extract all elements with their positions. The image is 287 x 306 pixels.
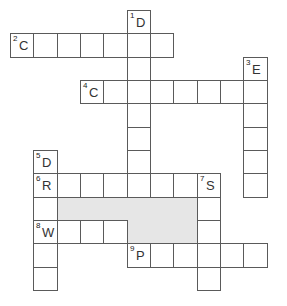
crossword-cell[interactable] — [127, 33, 151, 58]
crossword-cell[interactable] — [150, 33, 174, 58]
crossword-cell[interactable] — [197, 243, 221, 268]
cell-letter: E — [252, 63, 261, 77]
cell-letter: W — [42, 226, 54, 240]
crossword-cell[interactable] — [103, 173, 128, 198]
clue-number: 3 — [246, 58, 250, 68]
crossword-cell-clue-2[interactable]: 2C — [10, 33, 34, 58]
clue-number: 5 — [36, 151, 40, 161]
crossword-cell-clue-9[interactable]: 9P — [127, 243, 151, 268]
crossword-cell[interactable] — [33, 243, 58, 268]
clue-number: 4 — [83, 81, 87, 91]
crossword-cell[interactable] — [197, 267, 221, 291]
cell-letter: R — [42, 179, 51, 193]
cell-letter: C — [19, 39, 28, 53]
crossword-cell[interactable] — [243, 127, 268, 151]
crossword-cell[interactable] — [127, 103, 151, 128]
clue-number: 1 — [130, 11, 134, 21]
crossword-cell[interactable] — [150, 173, 174, 198]
crossword-cell[interactable] — [197, 80, 221, 104]
crossword-cell[interactable] — [127, 80, 151, 104]
crossword-cell[interactable] — [173, 173, 198, 198]
crossword-cell[interactable] — [243, 150, 268, 174]
crossword-cell-clue-6[interactable]: 6R — [33, 173, 58, 198]
crossword-cell[interactable] — [127, 150, 151, 174]
clue-number: 8 — [36, 221, 40, 231]
crossword-cell[interactable] — [103, 220, 128, 244]
clue-number: 9 — [130, 244, 134, 254]
shaded-region — [57, 197, 197, 220]
crossword-cell-clue-1[interactable]: 1D — [127, 10, 151, 34]
crossword-grid: 1D2C3E4C5D6R8W7S9P — [0, 0, 287, 306]
crossword-cell-clue-4[interactable]: 4C — [80, 80, 104, 104]
clue-number: 6 — [36, 174, 40, 184]
crossword-cell[interactable] — [33, 197, 58, 221]
crossword-cell[interactable] — [103, 80, 128, 104]
crossword-cell[interactable] — [127, 173, 151, 198]
clue-number: 2 — [13, 34, 17, 44]
crossword-cell[interactable] — [57, 33, 81, 58]
crossword-cell[interactable] — [57, 220, 81, 244]
crossword-cell[interactable] — [197, 197, 221, 221]
crossword-cell[interactable] — [127, 127, 151, 151]
crossword-cell[interactable] — [243, 243, 268, 268]
crossword-cell[interactable] — [150, 80, 174, 104]
crossword-cell[interactable] — [80, 173, 104, 198]
crossword-cell[interactable] — [33, 267, 58, 291]
crossword-cell-clue-8[interactable]: 8W — [33, 220, 58, 244]
cell-letter: D — [136, 16, 145, 30]
crossword-cell-clue-5[interactable]: 5D — [33, 150, 58, 174]
cell-letter: P — [136, 249, 145, 263]
shaded-region — [127, 220, 197, 243]
crossword-cell[interactable] — [150, 243, 174, 268]
crossword-cell[interactable] — [173, 80, 198, 104]
crossword-cell[interactable] — [197, 220, 221, 244]
cell-letter: S — [206, 179, 215, 193]
cell-letter: D — [42, 156, 51, 170]
crossword-cell[interactable] — [57, 173, 81, 198]
crossword-cell[interactable] — [243, 173, 268, 198]
crossword-cell[interactable] — [220, 80, 244, 104]
clue-number: 7 — [200, 174, 204, 184]
crossword-cell-clue-7[interactable]: 7S — [197, 173, 221, 198]
crossword-cell[interactable] — [243, 80, 268, 104]
crossword-cell[interactable] — [33, 33, 58, 58]
crossword-cell[interactable] — [173, 243, 198, 268]
crossword-cell[interactable] — [220, 243, 244, 268]
crossword-cell[interactable] — [80, 220, 104, 244]
crossword-cell[interactable] — [243, 103, 268, 128]
crossword-cell-clue-3[interactable]: 3E — [243, 57, 268, 81]
crossword-cell[interactable] — [80, 33, 104, 58]
crossword-cell[interactable] — [103, 33, 128, 58]
crossword-cell[interactable] — [127, 57, 151, 81]
cell-letter: C — [89, 86, 98, 100]
